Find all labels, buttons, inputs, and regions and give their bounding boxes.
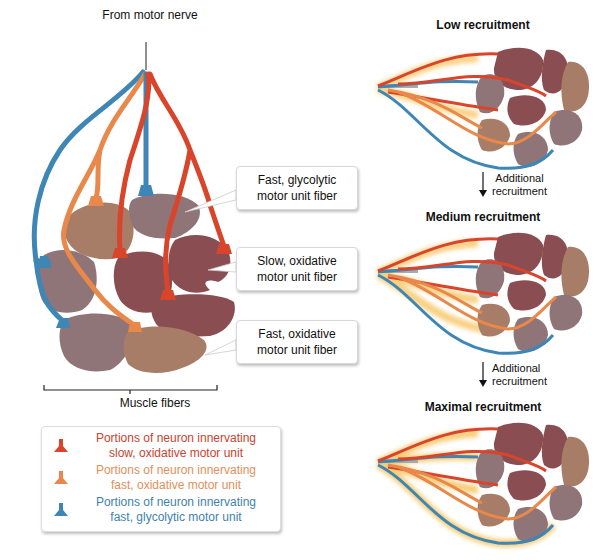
transition-line: recruitment: [492, 375, 547, 388]
transition-line: recruitment: [492, 185, 547, 198]
callout-line: motor unit fiber: [245, 269, 349, 285]
stage-title-maximal: Maximal recruitment: [383, 400, 583, 414]
legend-line: slow, oxidative motor unit: [74, 446, 278, 461]
callout-line: motor unit fiber: [245, 342, 349, 358]
stage-title-low: Low recruitment: [383, 18, 583, 32]
callout-slow-oxidative: Slow, oxidative motor unit fiber: [236, 247, 358, 291]
neuron-terminal-icon: [54, 471, 68, 485]
callout-line: Fast, oxidative: [245, 326, 349, 342]
neuron-terminal-icon: [54, 503, 68, 517]
stage-maximal: [378, 423, 589, 543]
callout-line: Fast, glycolytic: [245, 172, 349, 188]
legend-line: fast, oxidative motor unit: [74, 478, 278, 493]
legend-item-slow-oxidative: Portions of neuron innervating slow, oxi…: [50, 431, 276, 463]
transition-label: Additional recruitment: [492, 362, 547, 388]
legend-line: Portions of neuron innervating: [74, 463, 278, 478]
stage-title-medium: Medium recruitment: [383, 210, 583, 224]
callout-line: Slow, oxidative: [245, 253, 349, 269]
muscle-fibers-label: Muscle fibers: [95, 396, 215, 410]
muscle-fibers-bracket: [44, 385, 217, 394]
neuron-terminal-icon: [54, 439, 68, 453]
nerve-label: From motor nerve: [90, 8, 210, 22]
legend-line: fast, glycolytic motor unit: [74, 510, 278, 525]
down-arrow-icon: [479, 362, 487, 387]
stage-medium: [378, 233, 589, 353]
callout-fast-oxidative: Fast, oxidative motor unit fiber: [236, 320, 358, 364]
transition-label: Additional recruitment: [492, 172, 547, 198]
callout-line: motor unit fiber: [245, 188, 349, 204]
stage-low: [378, 48, 589, 168]
legend-item-fast-oxidative: Portions of neuron innervating fast, oxi…: [50, 463, 276, 495]
down-arrow-icon: [479, 172, 487, 197]
callout-fast-glycolytic: Fast, glycolytic motor unit fiber: [236, 166, 358, 210]
transition-line: Additional: [492, 172, 547, 185]
legend-line: Portions of neuron innervating: [74, 495, 278, 510]
transition-line: Additional: [492, 362, 547, 375]
legend-line: Portions of neuron innervating: [74, 431, 278, 446]
legend-item-fast-glycolytic: Portions of neuron innervating fast, gly…: [50, 495, 276, 527]
legend: Portions of neuron innervating slow, oxi…: [41, 426, 281, 532]
